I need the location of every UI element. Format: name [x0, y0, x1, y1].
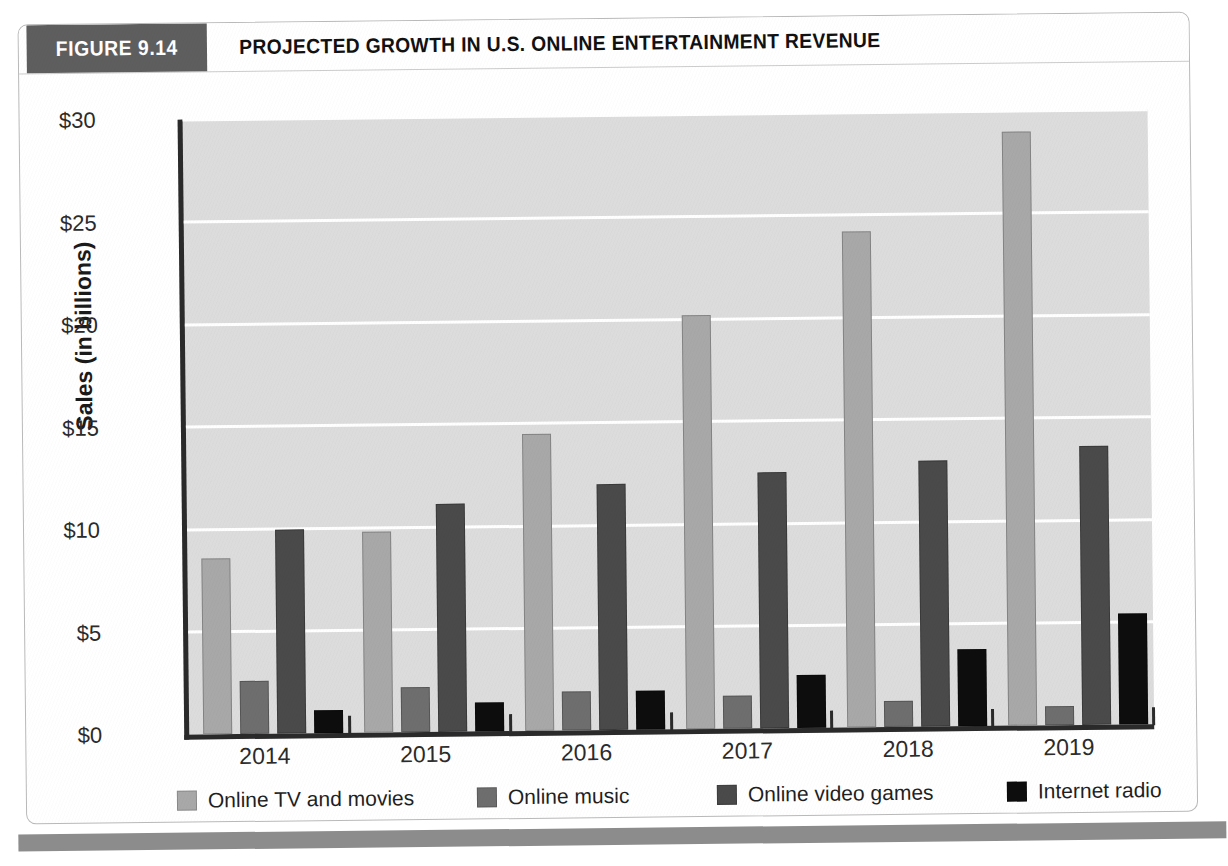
legend-item-online-video-games[interactable]: Online video games: [717, 781, 934, 807]
chart-legend: Online TV and moviesOnline musicOnline v…: [177, 773, 1167, 818]
legend-label: Online music: [508, 784, 630, 809]
legend-label: Online video games: [748, 781, 934, 807]
bar: [723, 696, 752, 729]
bar: [757, 472, 789, 729]
y-axis-tick-label: $10: [26, 518, 100, 545]
bar: [1079, 446, 1111, 725]
x-axis-tick-label-2016: 2016: [511, 738, 661, 767]
bar: [202, 558, 233, 735]
x-axis-tick-label-2015: 2015: [351, 740, 501, 769]
bar: [401, 687, 430, 732]
bar-group-2018: [840, 111, 987, 727]
legend-swatch-icon: [717, 785, 737, 805]
plot-area: [178, 109, 1155, 739]
legend-label: Internet radio: [1038, 778, 1162, 803]
chart-area: Sales (in billions) $0$5$10$15$20$25$30 …: [19, 61, 1197, 825]
y-axis-tick-label: $15: [25, 415, 99, 442]
y-axis-tick-label: $30: [21, 108, 95, 135]
y-axis-tick-label: $20: [24, 313, 98, 340]
x-axis-tickmark: [991, 709, 994, 727]
figure-card: FIGURE 9.14 PROJECTED GROWTH IN U.S. ONL…: [18, 12, 1199, 825]
bar: [275, 529, 306, 733]
figure-page: FIGURE 9.14 PROJECTED GROWTH IN U.S. ONL…: [0, 0, 1228, 866]
y-axis-tick-label: $0: [28, 723, 102, 750]
bar: [797, 674, 827, 728]
bar: [597, 484, 629, 730]
legend-swatch-icon: [177, 791, 197, 811]
x-axis-tickmark: [830, 711, 833, 729]
footer-rule: [18, 821, 1226, 851]
bar: [1001, 131, 1036, 726]
x-axis-tick-label-2017: 2017: [672, 737, 822, 766]
bar: [842, 231, 876, 727]
bar: [1118, 614, 1148, 725]
bar: [314, 710, 343, 733]
y-axis-tick-label: $5: [27, 620, 101, 647]
bar: [562, 691, 591, 730]
x-axis-tickmark: [509, 714, 512, 732]
bar: [957, 649, 987, 726]
legend-item-online-music[interactable]: Online music: [477, 784, 630, 810]
bar-group-2017: [679, 113, 826, 729]
x-axis-tickmark: [1152, 707, 1155, 725]
bar: [636, 691, 665, 730]
bar: [240, 680, 270, 734]
bar-group-2019: [1001, 109, 1148, 725]
legend-item-online-tv-and-movies[interactable]: Online TV and movies: [177, 786, 414, 813]
x-axis-tickmark: [670, 712, 673, 730]
bar-group-2016: [519, 114, 666, 730]
bar: [682, 315, 715, 729]
bar: [522, 433, 554, 731]
figure-number-badge: FIGURE 9.14: [26, 23, 207, 73]
y-axis-tick-label: $25: [23, 210, 97, 237]
legend-label: Online TV and movies: [208, 786, 414, 812]
bar: [918, 460, 950, 727]
legend-swatch-icon: [1007, 782, 1027, 802]
bar: [884, 701, 913, 727]
bar: [1045, 706, 1074, 726]
bar-group-2014: [197, 118, 344, 734]
x-axis-tick-label-2019: 2019: [994, 733, 1144, 762]
x-axis-tickmark: [348, 716, 351, 734]
legend-swatch-icon: [477, 787, 497, 807]
bar: [436, 504, 467, 732]
legend-item-internet-radio[interactable]: Internet radio: [1007, 778, 1162, 804]
bar: [362, 531, 393, 732]
bar-group-2015: [358, 116, 505, 732]
bar: [475, 702, 504, 731]
x-axis-tick-label-2014: 2014: [190, 742, 340, 771]
x-axis-tick-label-2018: 2018: [833, 735, 983, 764]
